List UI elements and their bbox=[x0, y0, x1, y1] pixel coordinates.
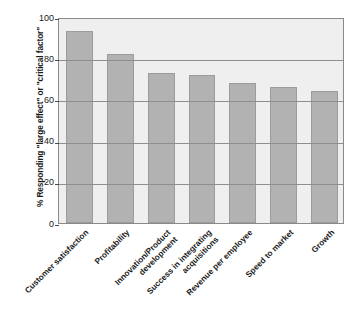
y-axis-tick-label: 40 bbox=[32, 137, 54, 146]
y-axis-tick-label: 20 bbox=[32, 178, 54, 187]
y-axis-tick-label: 100 bbox=[32, 14, 54, 23]
bar[interactable] bbox=[148, 73, 175, 223]
gridline bbox=[59, 143, 343, 144]
y-axis-tick-label: 60 bbox=[32, 96, 54, 105]
bars-layer bbox=[59, 19, 343, 223]
bar-chart: % Responding "large effect" or "critical… bbox=[0, 0, 363, 313]
gridline bbox=[59, 101, 343, 102]
gridline bbox=[59, 60, 343, 61]
plot-area bbox=[58, 18, 344, 224]
y-axis-tick-label: 80 bbox=[32, 55, 54, 64]
bar[interactable] bbox=[229, 83, 256, 223]
bar[interactable] bbox=[189, 75, 216, 223]
y-axis-tick-mark bbox=[55, 19, 59, 20]
y-axis-tick-mark bbox=[55, 225, 59, 226]
bar[interactable] bbox=[270, 87, 297, 223]
bar[interactable] bbox=[311, 91, 338, 223]
y-axis-tick-label: 0 bbox=[32, 220, 54, 229]
gridline bbox=[59, 184, 343, 185]
bar[interactable] bbox=[107, 54, 134, 223]
